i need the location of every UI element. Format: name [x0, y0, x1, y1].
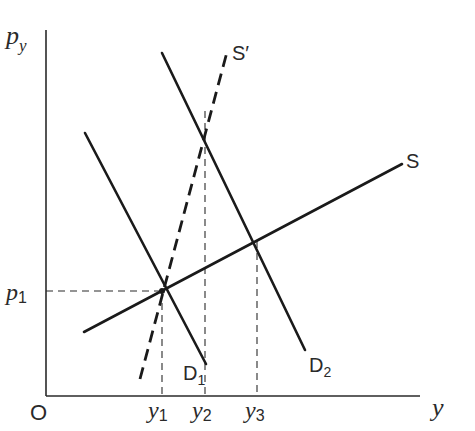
- supply-curve-s-prime: [140, 52, 227, 379]
- demand-curve-d2: [162, 53, 305, 350]
- origin-label: O: [30, 400, 47, 425]
- y2-label: y2: [190, 397, 212, 424]
- y1-label: y1: [146, 397, 168, 424]
- supply-curve-label-s-prime: S′: [232, 42, 249, 64]
- supply-demand-diagram: py y O p1 y1 y2 y3 S S′ D1 D2: [0, 0, 475, 431]
- supply-curve-label-s: S: [406, 150, 419, 172]
- y3-label: y3: [243, 397, 265, 424]
- supply-curve-s: [84, 164, 402, 332]
- demand-curve-label-d1: D1: [183, 362, 205, 388]
- demand-curve-d1: [85, 133, 206, 364]
- p1-label: p1: [4, 279, 27, 306]
- x-axis-label: y: [429, 393, 444, 422]
- equilibrium-point-e1: [159, 288, 165, 294]
- demand-curve-label-d2: D2: [309, 354, 331, 380]
- y-axis-label: py: [4, 21, 27, 55]
